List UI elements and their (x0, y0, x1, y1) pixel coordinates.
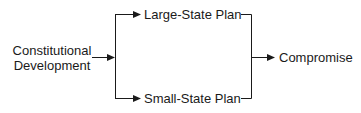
arrowhead-icon (107, 54, 115, 61)
result-node: Compromise (279, 50, 353, 65)
source-line1: Constitutional (8, 43, 96, 58)
flow-diagram: Constitutional Development Large-State P… (0, 0, 361, 113)
source-node: Constitutional Development (8, 43, 96, 73)
arrowhead-icon (133, 95, 141, 102)
branch-node-small-state: Small-State Plan (144, 91, 241, 106)
arrowhead-icon (267, 54, 275, 61)
arrowhead-icon (133, 11, 141, 18)
source-line2: Development (8, 58, 96, 73)
branch-node-large-state: Large-State Plan (144, 7, 242, 22)
